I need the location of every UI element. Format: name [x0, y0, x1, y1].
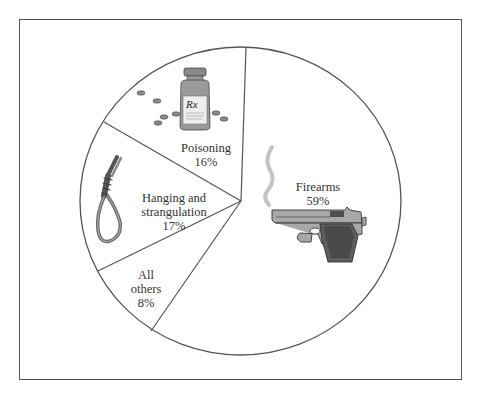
- label-firearms: Firearms 59%: [296, 180, 340, 208]
- label-hanging-line1: Hanging and: [141, 191, 206, 205]
- label-firearms-pct: 59%: [296, 194, 340, 208]
- svg-text:Rx: Rx: [185, 98, 198, 110]
- label-hanging: Hanging and strangulation 17%: [141, 191, 206, 233]
- label-others-line2: others: [131, 282, 162, 296]
- label-hanging-pct: 17%: [141, 219, 206, 233]
- label-others-line1: All: [131, 268, 162, 282]
- label-hanging-line2: strangulation: [141, 205, 206, 219]
- label-others: All others 8%: [131, 268, 162, 310]
- label-poisoning-pct: 16%: [181, 155, 231, 169]
- label-poisoning-name: Poisoning: [181, 141, 231, 155]
- label-poisoning: Poisoning 16%: [181, 141, 231, 169]
- label-others-pct: 8%: [131, 296, 162, 310]
- pie-chart: Rx: [0, 0, 481, 398]
- label-firearms-name: Firearms: [296, 180, 340, 194]
